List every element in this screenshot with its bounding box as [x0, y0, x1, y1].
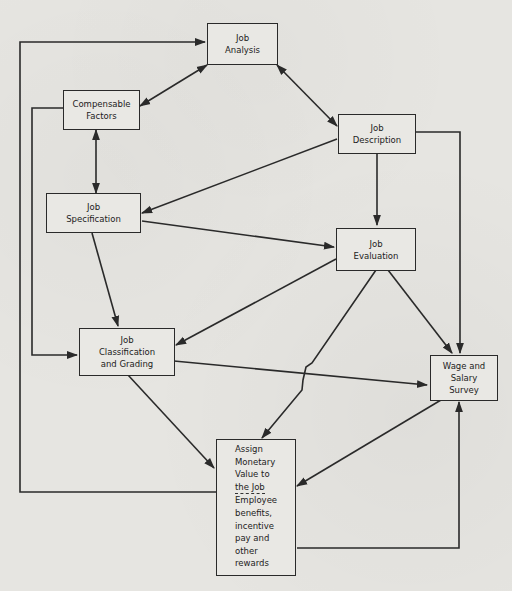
node-label: Employee [235, 494, 277, 507]
node-label: Specification [66, 213, 121, 225]
node-job-evaluation: Job Evaluation [336, 228, 416, 271]
node-label: and Grading [101, 358, 154, 370]
node-job-analysis: Job Analysis [207, 23, 278, 65]
node-label: Evaluation [354, 250, 399, 262]
node-compensable-factors: Compensable Factors [63, 90, 140, 130]
node-label: Salary [451, 372, 478, 384]
node-label: Analysis [225, 44, 260, 56]
node-label: Job [236, 32, 249, 44]
edge-rewards-to-wage [297, 402, 459, 548]
node-label: Classification [99, 346, 155, 358]
node-label: Wage and [443, 360, 485, 372]
node-label: Job [370, 122, 383, 134]
node-wage-salary-survey: Wage and Salary Survey [430, 355, 498, 401]
node-job-classification: Job Classification and Grading [79, 328, 175, 376]
edge-analysis-description [277, 65, 337, 126]
edge-evaluation-to-classification [176, 259, 336, 345]
edge-wage-to-assign [297, 400, 441, 486]
edge-specification-to-evaluation [142, 221, 334, 247]
edge-analysis-compensable [140, 65, 207, 106]
edge-evaluation-to-wage [388, 270, 452, 353]
node-label: pay and [235, 532, 269, 545]
node-label: Job [120, 334, 133, 346]
node-label: Job [369, 238, 382, 250]
node-label: Compensable [72, 98, 130, 110]
node-label: Monetary [235, 456, 275, 469]
edge-classification-to-assign [128, 375, 214, 468]
node-label: incentive [235, 520, 274, 533]
node-assign-monetary-value: Assign Monetary Value to the Job Employe… [216, 439, 296, 576]
edge-classification-to-wage [174, 361, 427, 385]
edge-description-to-specification [142, 139, 337, 213]
node-label: Factors [86, 110, 116, 122]
node-job-description: Job Description [338, 114, 416, 154]
node-label: benefits, [235, 507, 272, 520]
edge-specification-to-classification [92, 233, 118, 326]
node-label: Assign [235, 443, 263, 456]
node-label: Description [353, 134, 401, 146]
node-label: Job [87, 201, 100, 213]
node-label: the Job [235, 481, 265, 495]
node-label: Survey [449, 384, 479, 396]
node-job-specification: Job Specification [46, 193, 141, 233]
edge-description-to-wage [415, 132, 460, 353]
node-label: other [235, 545, 258, 558]
edge-evaluation-to-assign [262, 270, 376, 438]
node-label: Value to [235, 468, 270, 481]
node-label: rewards [235, 557, 269, 570]
